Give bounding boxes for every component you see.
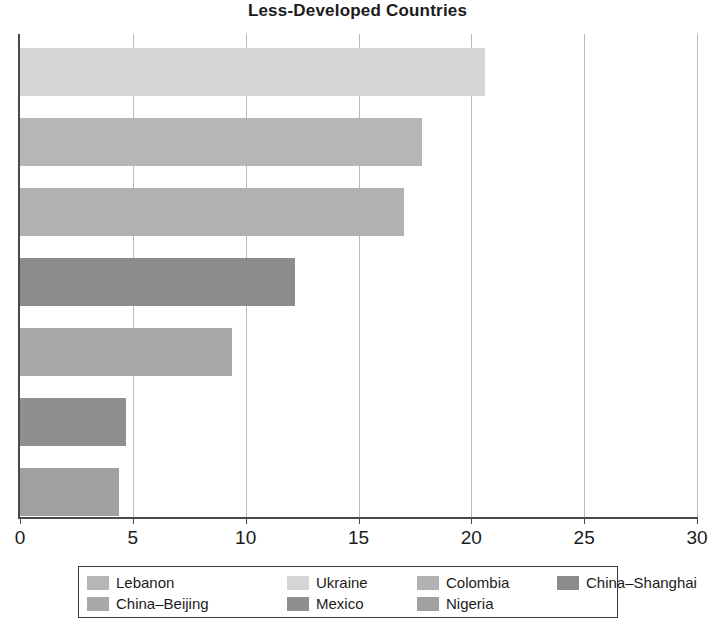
legend-label: Lebanon [116, 575, 174, 591]
gridline-20 [471, 34, 472, 518]
legend-row: China–BeijingMexicoNigeria [87, 593, 611, 614]
x-tick-label: 30 [686, 527, 707, 549]
legend-label: Colombia [446, 575, 509, 591]
legend-label: Mexico [316, 596, 364, 612]
x-tick-label: 10 [235, 527, 256, 549]
x-tick-label: 5 [128, 527, 139, 549]
tick-mark-0 [20, 517, 21, 524]
legend-item[interactable]: Ukraine [287, 575, 368, 591]
bar-chart: Less-Developed Countries 051015202530 Le… [0, 0, 715, 626]
bar [20, 48, 485, 96]
tick-mark-5 [133, 517, 134, 524]
legend-item[interactable]: Nigeria [417, 596, 494, 612]
bar [20, 328, 232, 376]
legend-swatch-icon [557, 576, 579, 590]
legend-item[interactable]: Colombia [417, 575, 509, 591]
legend-swatch-icon [287, 597, 309, 611]
legend-label: China–Beijing [116, 596, 209, 612]
legend-swatch-icon [287, 576, 309, 590]
legend-label: Nigeria [446, 596, 494, 612]
bar [20, 258, 295, 306]
x-tick-label: 15 [348, 527, 369, 549]
tick-mark-15 [359, 517, 360, 524]
bar [20, 118, 422, 166]
legend-row: LebanonUkraineColombiaChina–Shanghai [87, 572, 611, 593]
legend-label: China–Shanghai [586, 575, 697, 591]
tick-mark-30 [697, 517, 698, 524]
tick-mark-20 [471, 517, 472, 524]
legend-item[interactable]: Mexico [287, 596, 364, 612]
legend-item[interactable]: China–Beijing [87, 596, 209, 612]
gridline-25 [584, 34, 585, 518]
plot-area: 051015202530 [18, 34, 697, 518]
gridline-30 [697, 34, 698, 518]
legend-label: Ukraine [316, 575, 368, 591]
legend-item[interactable]: Lebanon [87, 575, 174, 591]
x-axis-line [18, 517, 697, 519]
x-tick-label: 0 [15, 527, 26, 549]
legend-swatch-icon [87, 597, 109, 611]
bar [20, 188, 404, 236]
gridline-15 [359, 34, 360, 518]
x-tick-label: 25 [574, 527, 595, 549]
legend-grid: LebanonUkraineColombiaChina–ShanghaiChin… [87, 572, 611, 614]
chart-title: Less-Developed Countries [0, 0, 715, 22]
legend-swatch-icon [417, 576, 439, 590]
tick-mark-10 [246, 517, 247, 524]
bar [20, 398, 126, 446]
bar [20, 468, 119, 516]
tick-mark-25 [584, 517, 585, 524]
legend-swatch-icon [87, 576, 109, 590]
legend-swatch-icon [417, 597, 439, 611]
legend: LebanonUkraineColombiaChina–ShanghaiChin… [78, 566, 618, 618]
x-tick-label: 20 [461, 527, 482, 549]
legend-item[interactable]: China–Shanghai [557, 575, 697, 591]
